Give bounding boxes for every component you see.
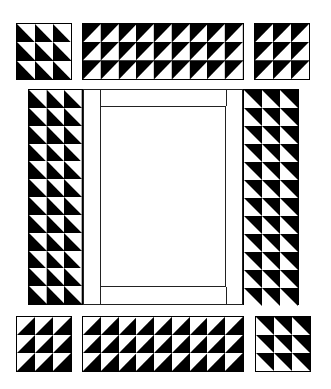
- half-square-triangle: [280, 90, 298, 108]
- half-square-triangle: [29, 251, 47, 269]
- half-square-triangle: [136, 335, 154, 353]
- half-square-triangle: [101, 335, 119, 353]
- half-square-triangle: [53, 42, 71, 60]
- half-square-triangle: [273, 42, 291, 60]
- half-square-triangle: [154, 317, 172, 335]
- block-top-right: [254, 23, 310, 80]
- half-square-triangle: [262, 270, 280, 288]
- half-square-triangle: [280, 162, 298, 180]
- half-square-triangle: [244, 108, 262, 126]
- half-square-triangle: [280, 180, 298, 198]
- half-square-triangle: [262, 198, 280, 216]
- half-square-triangle: [274, 335, 292, 353]
- half-square-triangle: [172, 353, 190, 371]
- half-square-triangle: [280, 234, 298, 252]
- block-top-middle: [82, 23, 244, 80]
- half-square-triangle: [244, 270, 262, 288]
- half-square-triangle: [172, 42, 190, 60]
- half-square-triangle: [207, 61, 225, 79]
- half-square-triangle: [29, 197, 47, 215]
- half-square-triangle: [64, 126, 82, 144]
- half-square-triangle: [255, 61, 273, 79]
- half-square-triangle: [225, 335, 243, 353]
- half-square-triangle: [207, 42, 225, 60]
- block-bottom-right: [255, 316, 311, 372]
- half-square-triangle: [207, 353, 225, 371]
- half-square-triangle: [119, 353, 137, 371]
- half-square-triangle: [47, 179, 65, 197]
- half-square-triangle: [280, 198, 298, 216]
- half-square-triangle: [53, 24, 71, 42]
- half-square-triangle: [262, 216, 280, 234]
- half-square-triangle: [291, 24, 309, 42]
- half-square-triangle: [154, 24, 172, 42]
- half-square-triangle: [83, 317, 101, 335]
- half-square-triangle: [262, 162, 280, 180]
- half-square-triangle: [244, 216, 262, 234]
- half-square-triangle: [17, 24, 35, 42]
- half-square-triangle: [101, 42, 119, 60]
- half-square-triangle: [225, 42, 243, 60]
- half-square-triangle: [47, 161, 65, 179]
- half-square-triangle: [47, 108, 65, 126]
- half-square-triangle: [29, 286, 47, 304]
- half-square-triangle: [172, 24, 190, 42]
- half-square-triangle: [35, 24, 53, 42]
- half-square-triangle: [83, 61, 101, 79]
- half-square-triangle: [256, 335, 274, 353]
- half-square-triangle: [262, 126, 280, 144]
- half-square-triangle: [225, 317, 243, 335]
- half-square-triangle: [64, 233, 82, 251]
- half-square-triangle: [64, 286, 82, 304]
- half-square-triangle: [35, 335, 53, 353]
- half-square-triangle: [64, 179, 82, 197]
- half-square-triangle: [119, 24, 137, 42]
- half-square-triangle: [154, 353, 172, 371]
- half-square-triangle: [274, 317, 292, 335]
- half-square-triangle: [47, 233, 65, 251]
- half-square-triangle: [154, 42, 172, 60]
- half-square-triangle: [190, 24, 208, 42]
- half-square-triangle: [53, 335, 71, 353]
- half-square-triangle: [29, 161, 47, 179]
- half-square-triangle: [280, 108, 298, 126]
- half-square-triangle: [64, 144, 82, 162]
- half-square-triangle: [172, 61, 190, 79]
- half-square-triangle: [190, 42, 208, 60]
- half-square-triangle: [255, 24, 273, 42]
- half-square-triangle: [64, 251, 82, 269]
- half-square-triangle: [136, 42, 154, 60]
- half-square-triangle: [64, 108, 82, 126]
- half-square-triangle: [244, 198, 262, 216]
- half-square-triangle: [190, 335, 208, 353]
- half-square-triangle: [256, 317, 274, 335]
- half-square-triangle: [101, 317, 119, 335]
- half-square-triangle: [29, 144, 47, 162]
- half-square-triangle: [29, 126, 47, 144]
- half-square-triangle: [136, 61, 154, 79]
- half-square-triangle: [53, 353, 71, 371]
- half-square-triangle: [244, 162, 262, 180]
- block-top-left: [16, 23, 72, 80]
- half-square-triangle: [190, 61, 208, 79]
- half-square-triangle: [172, 317, 190, 335]
- half-square-triangle: [136, 24, 154, 42]
- half-square-triangle: [207, 24, 225, 42]
- half-square-triangle: [280, 144, 298, 162]
- half-square-triangle: [35, 42, 53, 60]
- half-square-triangle: [101, 353, 119, 371]
- half-square-triangle: [244, 288, 262, 306]
- half-square-triangle: [225, 24, 243, 42]
- half-square-triangle: [273, 24, 291, 42]
- half-square-triangle: [262, 90, 280, 108]
- half-square-triangle: [119, 61, 137, 79]
- half-square-triangle: [274, 353, 292, 371]
- half-square-triangle: [244, 90, 262, 108]
- half-square-triangle: [280, 252, 298, 270]
- half-square-triangle: [244, 234, 262, 252]
- half-square-triangle: [101, 24, 119, 42]
- half-square-triangle: [190, 317, 208, 335]
- half-square-triangle: [256, 353, 274, 371]
- half-square-triangle: [292, 317, 310, 335]
- half-square-triangle: [207, 335, 225, 353]
